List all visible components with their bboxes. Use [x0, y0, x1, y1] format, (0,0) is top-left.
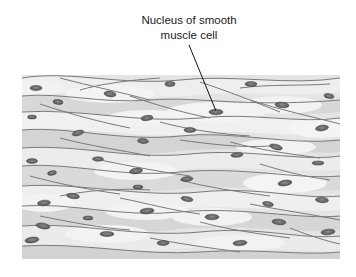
smooth-muscle-diagram: Nucleus of smooth muscle cell [0, 0, 356, 277]
tissue-sheet [8, 75, 356, 259]
nucleus-label: Nucleus of smooth muscle cell [129, 13, 249, 43]
label-line-1: Nucleus of smooth [129, 13, 249, 28]
label-line-2: muscle cell [129, 28, 249, 43]
